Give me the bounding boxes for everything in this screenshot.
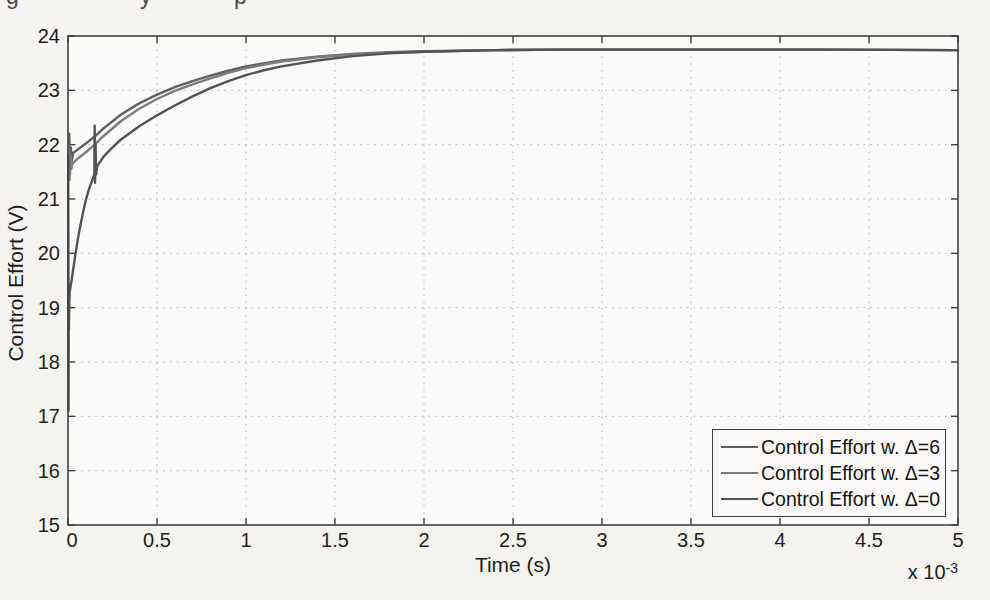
x-tick-label: 1 <box>240 529 251 552</box>
scanned-page: gyp 1516171819202122232400.511.522.533.5… <box>0 0 990 600</box>
x-tick-label: 0.5 <box>143 529 171 552</box>
x-axis-multiplier-base: x 10 <box>908 561 946 583</box>
y-tick-label: 23 <box>2 79 60 102</box>
x-axis-title: Time (s) <box>68 553 958 577</box>
legend-line-swatch <box>721 498 758 500</box>
y-tick-label: 24 <box>2 25 60 48</box>
x-tick-label: 2.5 <box>499 529 527 552</box>
legend-item: Control Effort w. Δ=3 <box>721 460 939 486</box>
x-tick-label: 1.5 <box>321 529 349 552</box>
x-tick-label: 0 <box>66 529 77 552</box>
legend-item-label: Control Effort w. Δ=6 <box>761 436 940 459</box>
legend: Control Effort w. Δ=6 Control Effort w. … <box>712 429 946 517</box>
y-tick-label: 16 <box>2 460 60 483</box>
x-tick-label: 3.5 <box>677 529 705 552</box>
legend-line-swatch <box>721 472 758 474</box>
x-tick-label: 5 <box>952 529 963 552</box>
legend-item: Control Effort w. Δ=0 <box>721 486 939 512</box>
control-effort-figure: 1516171819202122232400.511.522.533.544.5… <box>0 0 990 600</box>
legend-line-swatch <box>721 446 758 448</box>
y-axis-title: Control Effort (V) <box>4 143 28 423</box>
legend-item: Control Effort w. Δ=6 <box>721 434 939 460</box>
x-tick-label: 4.5 <box>855 529 883 552</box>
x-axis-multiplier-exponent: -3 <box>946 560 958 576</box>
legend-item-label: Control Effort w. Δ=0 <box>761 488 940 511</box>
x-tick-label: 2 <box>418 529 429 552</box>
x-axis-multiplier: x 10-3 <box>908 560 958 584</box>
x-tick-label: 4 <box>774 529 785 552</box>
y-tick-label: 15 <box>2 514 60 537</box>
legend-item-label: Control Effort w. Δ=3 <box>761 462 940 485</box>
x-tick-label: 3 <box>596 529 607 552</box>
